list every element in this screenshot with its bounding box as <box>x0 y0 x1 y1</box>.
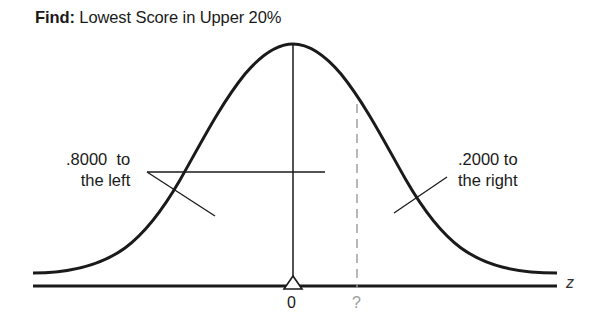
z-axis-label: z <box>566 274 574 292</box>
left-area-value: .8000 to <box>66 149 130 170</box>
left-area-label: .8000 to the left <box>66 149 130 191</box>
right-leader-diagonal <box>394 177 447 213</box>
mean-triangle-marker <box>284 276 302 289</box>
unknown-cutoff-label: ? <box>352 294 361 312</box>
title-text: Lowest Score in Upper 20% <box>79 8 281 26</box>
right-area-direction: the right <box>458 170 518 191</box>
right-area-label: .2000 to the right <box>458 149 518 191</box>
diagram-title: Find: Lowest Score in Upper 20% <box>35 8 281 27</box>
title-prefix: Find: <box>35 8 75 26</box>
mean-tick-label: 0 <box>287 294 296 312</box>
left-area-direction: the left <box>66 170 130 191</box>
right-area-value: .2000 to <box>458 149 518 170</box>
